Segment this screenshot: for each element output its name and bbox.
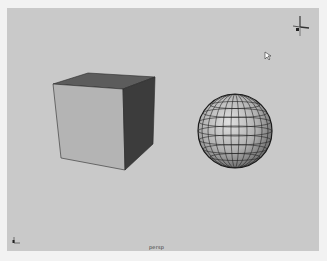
sphere-object[interactable] xyxy=(198,94,272,168)
mouse-cursor-icon xyxy=(265,52,271,60)
cube-object[interactable] xyxy=(53,73,155,170)
cube-side-face xyxy=(123,77,155,170)
origin-axis-icon xyxy=(13,237,21,243)
scene[interactable] xyxy=(7,8,319,251)
3d-viewport[interactable]: persp xyxy=(7,8,319,251)
axis-gizmo-icon[interactable] xyxy=(293,16,309,36)
cube-front-face xyxy=(53,84,125,170)
camera-label: persp xyxy=(149,244,164,250)
